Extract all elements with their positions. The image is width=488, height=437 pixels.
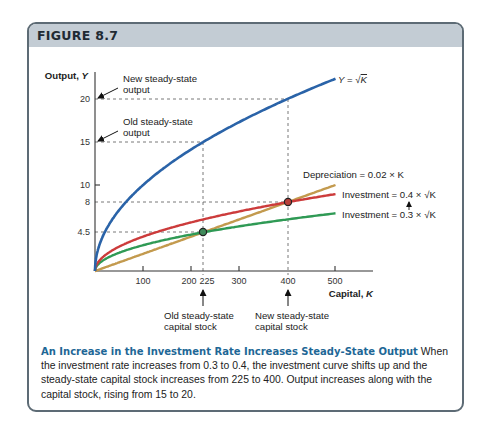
investment-old-label: Investment = 0.3 × √K: [342, 209, 436, 220]
x-tick-100: 100: [135, 276, 150, 286]
investment-0_4-curve: [95, 194, 336, 271]
ann-old-output-line2: output: [123, 127, 150, 138]
new-steady-state-marker: [284, 198, 291, 205]
y-axis-title: Output, Y: [45, 70, 90, 81]
x-tick-400: 400: [280, 276, 295, 286]
ann-old-output-line1: Old steady-state: [123, 116, 193, 127]
x-tick-200: 200: [181, 276, 196, 286]
y-tick-8: 8: [85, 197, 90, 207]
x-axis-title: Capital, K: [329, 288, 374, 299]
caption-heading: An Increase in the Investment Rate Incre…: [41, 346, 418, 357]
output-curve-label: Y = √K: [338, 74, 368, 85]
investment-new-label: Investment = 0.4 × √K: [342, 189, 436, 200]
x-tick-225: 225: [199, 276, 214, 286]
old-steady-state-marker: [199, 228, 206, 235]
x-tick-300: 300: [231, 276, 246, 286]
y-tick-labels: 20 15 10 8 4.5: [77, 94, 90, 237]
x-tick-labels: 100 200 225 300 400 500: [135, 276, 342, 286]
ann-new-output-line2: output: [123, 84, 150, 95]
new-output-arrow-icon: [98, 88, 118, 98]
y-tick-4_5: 4.5: [77, 227, 90, 237]
y-tick-20: 20: [80, 94, 90, 104]
ann-new-capital-line1: New steady-state: [255, 310, 329, 321]
ann-old-capital-line2: capital stock: [164, 321, 217, 332]
y-tick-15: 15: [80, 137, 90, 147]
ann-new-capital-line2: capital stock: [255, 321, 308, 332]
x-tick-500: 500: [327, 276, 342, 286]
ann-old-capital-line1: Old steady-state: [164, 310, 234, 321]
old-output-arrow-icon: [98, 131, 118, 141]
y-tick-10: 10: [80, 180, 90, 190]
depreciation-label: Depreciation = 0.02 × K: [303, 169, 404, 180]
ann-new-output-line1: New steady-state: [123, 73, 197, 84]
figure-caption: An Increase in the Investment Rate Incre…: [41, 345, 451, 402]
